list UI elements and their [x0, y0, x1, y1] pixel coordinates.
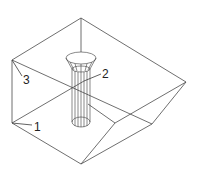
label-3: 3 [23, 73, 30, 87]
leader-2 [84, 74, 101, 81]
funnel-cylinder [66, 52, 96, 127]
wireframe-diagram: 1 2 3 [0, 0, 200, 174]
callouts: 1 2 3 [12, 60, 109, 134]
block-edges [12, 18, 186, 164]
label-2: 2 [102, 67, 109, 81]
wireframe-drawing: 1 2 3 [0, 0, 200, 174]
label-1: 1 [34, 120, 41, 134]
